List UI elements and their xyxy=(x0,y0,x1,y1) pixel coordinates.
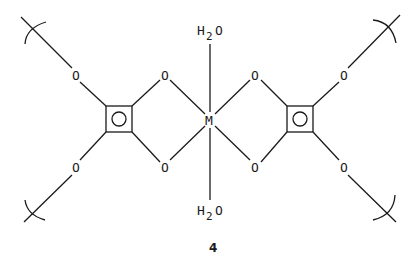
bond xyxy=(215,80,250,114)
oxygen-inner-bottom-right: O xyxy=(251,160,259,175)
compound-number: 4 xyxy=(209,241,217,255)
left-ring-circle xyxy=(112,112,126,126)
bond xyxy=(80,82,106,106)
right-squarate-ring xyxy=(287,106,313,132)
bond xyxy=(170,80,205,114)
oxygen-outer-bottom-right: O xyxy=(340,160,348,175)
bond xyxy=(261,80,287,106)
bond xyxy=(215,126,250,160)
oxygen-inner-top-left: O xyxy=(161,68,169,83)
oxygen-outer-top-left: O xyxy=(72,68,80,83)
svg-text:2: 2 xyxy=(206,30,213,43)
oxygen-outer-top-right: O xyxy=(340,68,348,83)
water-ligand-bottom: H 2 O xyxy=(197,203,223,223)
svg-text:O: O xyxy=(215,203,223,218)
oxygen-outer-bottom-left: O xyxy=(72,160,80,175)
bond xyxy=(313,132,339,160)
svg-text:H: H xyxy=(197,23,205,38)
oxygen-inner-bottom-left: O xyxy=(161,160,169,175)
bond xyxy=(261,132,287,162)
metal-center: M xyxy=(205,113,213,128)
chemical-structure-diagram: O O O O O O O O M H 2 O H 2 O 4 xyxy=(0,0,419,271)
right-ring-circle xyxy=(293,112,307,126)
oxygen-inner-top-right: O xyxy=(251,68,259,83)
bond xyxy=(170,126,205,160)
bond xyxy=(132,80,160,106)
bracket-top-left xyxy=(21,17,72,68)
bond xyxy=(313,82,339,106)
svg-text:H: H xyxy=(197,203,205,218)
svg-text:O: O xyxy=(215,23,223,38)
svg-text:2: 2 xyxy=(206,210,213,223)
bracket-top-right xyxy=(348,15,400,68)
bracket-bottom-right xyxy=(348,175,396,222)
bracket-bottom-left xyxy=(24,175,72,222)
bond xyxy=(132,132,160,162)
left-squarate-ring xyxy=(106,106,132,132)
water-ligand-top: H 2 O xyxy=(197,23,223,43)
bond xyxy=(80,132,106,160)
